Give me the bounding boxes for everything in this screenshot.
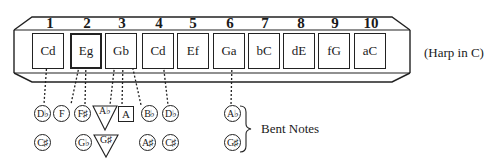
hole-number-4: 4	[142, 15, 176, 31]
bent-note-circle: F	[53, 105, 70, 122]
hole-number-10: 10	[354, 15, 388, 31]
bent-note-square: A	[118, 106, 134, 122]
hole-5: Ef	[177, 33, 209, 69]
bent-note-circle: A♯	[139, 134, 156, 151]
bent-note-circle: A♭	[224, 105, 241, 122]
hole-7: bC	[248, 33, 280, 69]
hole-10: aC	[354, 33, 386, 69]
hole-number-5: 5	[176, 15, 210, 31]
hole-number-3: 3	[105, 15, 139, 31]
hole-9: fG	[318, 33, 350, 69]
bent-note-circle: G♯	[224, 134, 241, 151]
hole-8: dE	[283, 33, 315, 69]
bent-note-circle: D♭	[162, 105, 179, 122]
hole-number-2: 2	[70, 15, 104, 31]
bent-notes-label: Bent Notes	[261, 121, 319, 137]
hole-1: Cd	[32, 33, 64, 69]
hole-6: Ga	[213, 33, 245, 69]
hole-number-1: 1	[33, 15, 67, 31]
bent-note-circle: G♭	[75, 134, 92, 151]
bent-note-triangle: G♯	[95, 134, 117, 145]
hole-number-6: 6	[213, 15, 247, 31]
hole-number-9: 9	[318, 15, 352, 31]
bent-note-circle: F♯	[74, 105, 91, 122]
hole-2: Eg	[70, 33, 102, 69]
bent-note-circle: C♯	[162, 134, 179, 151]
bent-note-circle: C♯	[34, 134, 51, 151]
harp-key-label: (Harp in C)	[424, 45, 484, 61]
hole-number-8: 8	[284, 15, 318, 31]
bent-note-triangle: A♭	[94, 105, 116, 116]
hole-4: Cd	[142, 33, 174, 69]
bent-note-circle: B♭	[141, 105, 158, 122]
hole-3: Gb	[105, 33, 137, 69]
bent-note-circle: D♭	[34, 105, 51, 122]
hole-number-7: 7	[248, 15, 282, 31]
